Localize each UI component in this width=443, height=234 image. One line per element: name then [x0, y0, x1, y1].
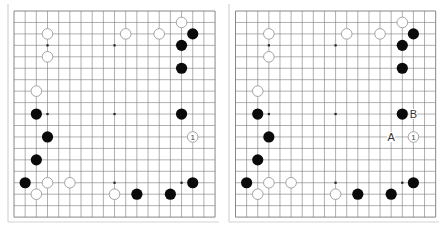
black-stone [42, 131, 53, 142]
star-point [334, 113, 336, 115]
black-stone [408, 177, 419, 188]
star-point [268, 44, 270, 46]
white-stone [330, 189, 341, 200]
stones: 1 [20, 17, 199, 200]
black-stone [131, 189, 142, 200]
star-point [46, 113, 48, 115]
black-stone [187, 177, 198, 188]
go-board-left: 1 Diagram 1 [0, 0, 222, 234]
white-stone [31, 189, 42, 200]
star-point [180, 182, 182, 184]
black-stone [241, 177, 252, 188]
black-stone [187, 28, 198, 39]
black-stone [176, 40, 187, 51]
black-stone [352, 189, 363, 200]
black-stone [165, 189, 176, 200]
black-stone [176, 108, 187, 119]
white-stone [176, 17, 187, 28]
move-number: 1 [190, 133, 195, 142]
move-number: 1 [411, 133, 416, 142]
black-stone [252, 154, 263, 165]
black-stone [31, 154, 42, 165]
go-board-right-canvas: BA1 [222, 0, 443, 234]
white-stone [31, 86, 42, 97]
black-stone [397, 40, 408, 51]
point-label-b: B [410, 108, 417, 120]
white-stone [264, 177, 275, 188]
star-point [113, 113, 115, 115]
white-stone [42, 52, 53, 63]
go-board-left-canvas: 1 [0, 0, 222, 234]
star-point [268, 113, 270, 115]
black-stone [397, 63, 408, 74]
black-stone [31, 108, 42, 119]
white-stone [42, 177, 53, 188]
go-board-right: BA1 Diagram 2 [222, 0, 443, 234]
point-label-a: A [388, 131, 396, 143]
star-point [46, 44, 48, 46]
white-stone [252, 189, 263, 200]
black-stone [263, 131, 274, 142]
black-stone [176, 63, 187, 74]
black-stone [386, 189, 397, 200]
white-stone [264, 29, 275, 40]
black-stone [20, 177, 31, 188]
white-stone [341, 29, 352, 40]
white-stone [375, 29, 386, 40]
white-stone [109, 189, 120, 200]
white-stone [286, 177, 297, 188]
white-stone: 1 [408, 132, 419, 143]
black-stone [252, 108, 263, 119]
star-point [401, 182, 403, 184]
stones: 1 [241, 17, 419, 200]
white-stone [42, 29, 53, 40]
white-stone [154, 29, 165, 40]
white-stone [264, 52, 275, 63]
star-point [113, 44, 115, 46]
star-point [334, 182, 336, 184]
white-stone: 1 [187, 132, 198, 143]
white-stone [120, 29, 131, 40]
white-stone [397, 17, 408, 28]
star-point [334, 44, 336, 46]
black-stone [408, 28, 419, 39]
white-stone [252, 86, 263, 97]
black-stone [397, 108, 408, 119]
white-stone [65, 177, 76, 188]
star-point [113, 182, 115, 184]
